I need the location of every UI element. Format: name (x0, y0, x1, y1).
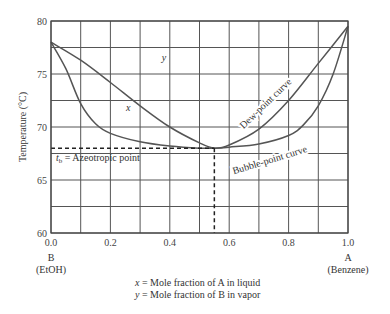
grid (51, 21, 348, 233)
x-right-component: A (344, 252, 352, 263)
x-tick-labels: 0.00.20.40.60.81.0 (45, 237, 355, 248)
footnote-x-text: = Mole fraction of A in liquid (139, 277, 260, 288)
footnote-y-text: = Mole fraction of B in vapor (139, 289, 261, 300)
azeotrope-label: tb = Azeotropic point (56, 152, 140, 165)
curve-label-y: y (161, 52, 167, 63)
x-right-component-name: (Benzene) (327, 264, 368, 276)
vle-phase-diagram: 6065707580 0.00.20.40.60.81.0 Temperatur… (0, 0, 390, 314)
footnote-y: y = Mole fraction of B in vapor (134, 289, 261, 300)
y-axis-label: Temperature (°C) (17, 92, 29, 162)
y-tick-label: 65 (37, 175, 47, 186)
x-tick-label: 0.2 (104, 237, 117, 248)
x-tick-label: 0.6 (223, 237, 236, 248)
x-tick-label: 0.0 (45, 237, 58, 248)
x-left-component: B (48, 252, 55, 263)
azeotrope-label-text: = Azeotropic point (62, 152, 140, 163)
x-left-component-name: (EtOH) (36, 264, 66, 276)
y-tick-labels: 6065707580 (37, 16, 47, 239)
x-tick-label: 0.4 (164, 237, 177, 248)
curve-label-x: x (125, 102, 131, 113)
annotation-bubble-point-curve: Bubble-point curve (231, 143, 309, 176)
y-tick-label: 75 (37, 69, 47, 80)
y-tick-label: 80 (37, 16, 47, 27)
y-tick-label: 70 (37, 122, 47, 133)
x-tick-label: 1.0 (342, 237, 355, 248)
footnote-x: x = Mole fraction of A in liquid (134, 277, 260, 288)
x-tick-label: 0.8 (282, 237, 295, 248)
